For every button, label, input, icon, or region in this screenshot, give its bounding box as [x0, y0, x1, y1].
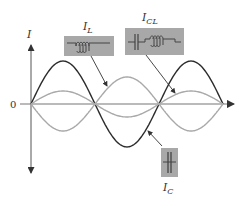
tank-current-label: ICL	[141, 11, 158, 26]
capacitor-current-label: IC	[162, 181, 173, 196]
inductor-pointer-arrow	[91, 56, 107, 86]
tank-symbol-box	[125, 28, 184, 55]
tank-pointer-arrow	[146, 55, 175, 93]
resonance-current-diagram: I 0 IL ICL IC	[0, 0, 249, 202]
inductor-current-label: IL	[82, 20, 93, 35]
y-axis-label: I	[26, 28, 32, 41]
capacitor-symbol-box	[161, 148, 178, 177]
axes	[20, 45, 234, 173]
capacitor-pointer-arrow	[148, 131, 162, 146]
inductor-symbol-box	[64, 36, 114, 56]
origin-label: 0	[10, 99, 16, 110]
